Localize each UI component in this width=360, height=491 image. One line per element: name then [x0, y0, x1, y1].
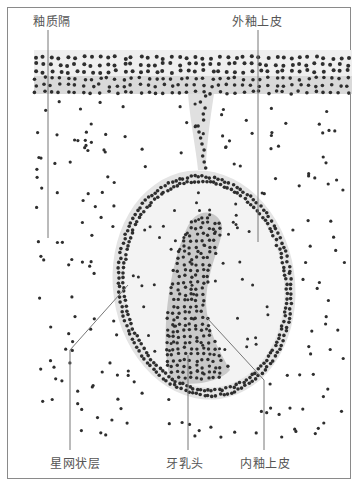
label-stellate-reticulum: 星网状层 — [50, 454, 100, 471]
dental-lamina — [188, 94, 214, 170]
label-inner-enamel-epithelium: 内釉上皮 — [240, 454, 290, 471]
tooth-germ-illustration — [0, 0, 360, 491]
label-outer-enamel-epithelium: 外釉上皮 — [232, 12, 282, 29]
label-dental-papilla: 牙乳头 — [166, 454, 204, 471]
label-stellate-interstitial: 釉质隔 — [33, 12, 71, 29]
